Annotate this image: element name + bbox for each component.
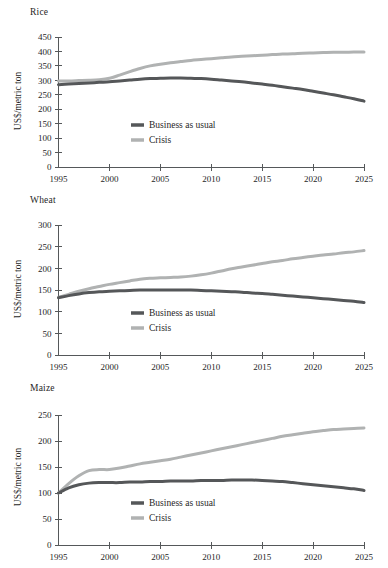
x-tick-label: 2010: [202, 552, 221, 562]
plot-area-wheat: 0501001502002503001995200020052010201520…: [0, 188, 388, 378]
x-tick-label: 2020: [304, 362, 323, 372]
y-tick-label: 250: [38, 410, 52, 420]
legend-label-business-as-usual: Business as usual: [149, 120, 216, 130]
plot-area-rice: 0501001502002503003504004501995200020052…: [0, 0, 388, 190]
y-tick-label: 0: [47, 350, 52, 360]
x-tick-label: 2025: [355, 174, 374, 184]
legend-label-crisis: Crisis: [149, 135, 171, 145]
legend-label-business-as-usual: Business as usual: [149, 308, 216, 318]
y-tick-label: 150: [38, 462, 52, 472]
y-tick-label: 0: [47, 540, 52, 550]
x-tick-label: 2005: [151, 362, 170, 372]
y-tick-label: 300: [38, 220, 52, 230]
legend-label-business-as-usual: Business as usual: [149, 498, 216, 508]
x-tick-label: 2010: [202, 362, 221, 372]
y-tick-label: 0: [47, 162, 52, 172]
y-tick-label: 100: [38, 488, 52, 498]
y-tick-label: 50: [43, 329, 53, 339]
chart-panel-rice: Rice US$/metric ton 05010015020025030035…: [0, 0, 388, 190]
figure-container: Rice US$/metric ton 05010015020025030035…: [0, 0, 388, 568]
x-tick-label: 2025: [355, 362, 374, 372]
x-tick-label: 2015: [253, 174, 272, 184]
x-tick-label: 2000: [100, 552, 119, 562]
x-tick-label: 2000: [100, 362, 119, 372]
y-tick-label: 50: [43, 514, 53, 524]
y-tick-label: 300: [38, 76, 52, 86]
y-tick-label: 100: [38, 133, 52, 143]
y-tick-label: 450: [38, 32, 52, 42]
plot-area-maize: 0501001502002501995200020052010201520202…: [0, 376, 388, 568]
y-tick-label: 400: [38, 47, 52, 57]
x-tick-label: 1995: [50, 552, 69, 562]
y-tick-label: 250: [38, 90, 52, 100]
series-line-business-as-usual: [59, 78, 365, 101]
x-tick-label: 2005: [151, 552, 170, 562]
x-tick-label: 2015: [253, 362, 272, 372]
chart-panel-maize: Maize US$/metric ton 0501001502002501995…: [0, 376, 388, 568]
chart-panel-wheat: Wheat US$/metric ton 0501001502002503001…: [0, 188, 388, 378]
x-tick-label: 2005: [151, 174, 170, 184]
y-tick-label: 100: [38, 307, 52, 317]
x-tick-label: 2015: [253, 552, 272, 562]
x-tick-label: 2020: [304, 552, 323, 562]
legend-label-crisis: Crisis: [149, 513, 171, 523]
x-tick-label: 1995: [50, 174, 69, 184]
x-tick-label: 2020: [304, 174, 323, 184]
y-tick-label: 200: [38, 264, 52, 274]
x-tick-label: 2010: [202, 174, 221, 184]
y-tick-label: 50: [43, 148, 53, 158]
x-tick-label: 2000: [100, 174, 119, 184]
y-tick-label: 150: [38, 119, 52, 129]
series-line-business-as-usual: [59, 290, 365, 303]
y-tick-label: 250: [38, 242, 52, 252]
y-tick-label: 350: [38, 61, 52, 71]
axis-lines: [59, 37, 365, 167]
x-tick-label: 1995: [50, 362, 69, 372]
legend-label-crisis: Crisis: [149, 323, 171, 333]
y-tick-label: 200: [38, 104, 52, 114]
x-tick-label: 2025: [355, 552, 374, 562]
series-line-crisis: [59, 52, 365, 81]
series-line-business-as-usual: [59, 480, 365, 493]
y-tick-label: 150: [38, 285, 52, 295]
y-tick-label: 200: [38, 436, 52, 446]
